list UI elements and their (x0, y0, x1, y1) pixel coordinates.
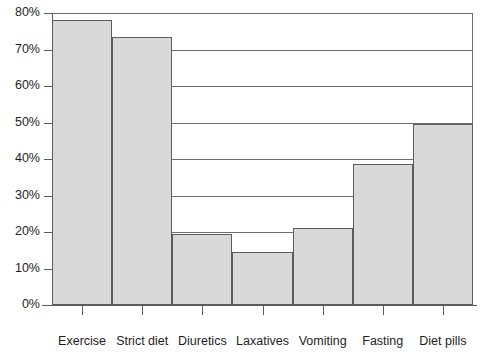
y-axis-tick-label: 0% (0, 297, 40, 311)
y-axis-tick (44, 123, 52, 124)
y-axis-tick (44, 196, 52, 197)
bar-exercise (52, 20, 112, 305)
x-axis-tick-label: Diuretics (178, 334, 227, 348)
x-axis-line (42, 305, 477, 306)
x-axis-tick-label: Exercise (58, 334, 106, 348)
x-axis-tick-label: Diet pills (419, 334, 466, 348)
bar-diuretics (172, 234, 232, 305)
x-axis-tick-label: Strict diet (116, 334, 168, 348)
x-axis-tick (202, 306, 203, 315)
bar-series (52, 13, 473, 305)
bar-fasting (353, 164, 413, 305)
bar-diet-pills (413, 124, 473, 305)
y-axis-tick (44, 232, 52, 233)
y-axis-tick-label: 70% (0, 42, 40, 56)
y-axis-tick-label: 40% (0, 151, 40, 165)
x-axis-tick-label: Fasting (362, 334, 403, 348)
bar-vomiting (293, 228, 353, 305)
y-axis-tick (44, 86, 52, 87)
y-axis-tick (44, 269, 52, 270)
y-axis-tick (44, 13, 52, 14)
x-axis-tick (443, 306, 444, 315)
bar-strict-diet (112, 37, 172, 305)
bar-laxatives (232, 252, 293, 305)
x-axis-tick (142, 306, 143, 315)
x-axis-tick (383, 306, 384, 315)
y-axis-tick-label: 80% (0, 5, 40, 19)
y-axis-tick-label: 10% (0, 261, 40, 275)
y-axis-tick-label: 30% (0, 188, 40, 202)
y-axis-tick-label: 60% (0, 78, 40, 92)
x-axis-tick-label: Vomiting (299, 334, 347, 348)
y-axis-tick-label: 20% (0, 224, 40, 238)
x-axis-tick (263, 306, 264, 315)
y-axis-line (52, 13, 53, 306)
x-axis-tick (323, 306, 324, 315)
x-axis-tick-label: Laxatives (236, 334, 289, 348)
y-axis-tick (44, 159, 52, 160)
x-axis-tick (82, 306, 83, 315)
y-axis-tick (44, 50, 52, 51)
bar-chart: 0%10%20%30%40%50%60%70%80% ExerciseStric… (0, 0, 482, 363)
y-axis-tick-label: 50% (0, 115, 40, 129)
